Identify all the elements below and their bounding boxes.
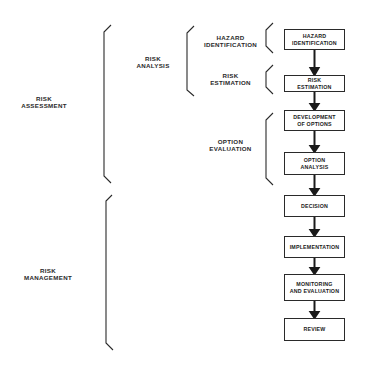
label-risk-estimation: RISK ESTIMATION (198, 72, 263, 87)
bracket-option-evaluation (266, 113, 273, 185)
step-option-analysis: OPTION ANALYSIS (284, 152, 345, 175)
bracket-risk-assessment (104, 25, 111, 183)
bracket-risk-management (106, 195, 113, 350)
step-review: REVIEW (284, 318, 345, 341)
diagram-connectors (0, 0, 366, 368)
label-risk-assessment: RISK ASSESSMENT (14, 95, 74, 110)
step-decision: DECISION (284, 195, 345, 217)
bracket-hazard-identification (266, 23, 273, 53)
step-monitoring-and-evaluation: MONITORING AND EVALUATION (284, 274, 345, 301)
step-risk-estimation: RISK ESTIMATION (284, 75, 345, 92)
step-implementation: IMPLEMENTATION (284, 236, 345, 258)
label-risk-management: RISK MANAGEMENT (18, 267, 78, 282)
label-risk-analysis: RISK ANALYSIS (128, 55, 178, 70)
bracket-risk-analysis (187, 26, 194, 96)
step-development-of-options: DEVELOPMENT OF OPTIONS (284, 110, 345, 131)
label-option-evaluation: OPTION EVALUATION (198, 138, 263, 153)
label-hazard-identification: HAZARD IDENTIFICATION (198, 34, 263, 49)
bracket-risk-estimation (266, 65, 273, 94)
step-hazard-identification: HAZARD IDENTIFICATION (284, 29, 345, 50)
